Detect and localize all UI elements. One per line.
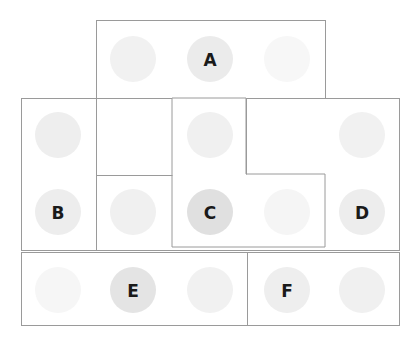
circle-a-shape [187, 36, 233, 82]
circle-r4c5-shape [339, 267, 385, 313]
circle-r3c4-shape [264, 189, 310, 235]
circle-c-shape [187, 189, 233, 235]
diagram-canvas: ABCDEF [0, 0, 418, 340]
circle-r1c2-shape [110, 36, 156, 82]
circle-r4c3 [187, 267, 233, 313]
circle-r3c2-shape [110, 189, 156, 235]
circle-d-shape [339, 189, 385, 235]
circle-r1c4 [264, 36, 310, 82]
circle-f: F [264, 267, 310, 313]
circle-r4c1 [35, 267, 81, 313]
circle-r2c5-shape [339, 112, 385, 158]
circle-r4c3-shape [187, 267, 233, 313]
circle-b-shape [35, 189, 81, 235]
circle-a: A [187, 36, 233, 82]
circle-r2c1 [35, 112, 81, 158]
circle-r2c1-shape [35, 112, 81, 158]
circle-r2c3 [187, 112, 233, 158]
circle-d: D [339, 189, 385, 235]
circle-c: C [187, 189, 233, 235]
circle-r1c2 [110, 36, 156, 82]
circle-r4c5 [339, 267, 385, 313]
circle-r1c4-shape [264, 36, 310, 82]
circle-r3c4 [264, 189, 310, 235]
circle-r3c2 [110, 189, 156, 235]
circle-e-shape [110, 267, 156, 313]
circle-r2c3-shape [187, 112, 233, 158]
circle-f-shape [264, 267, 310, 313]
circle-r4c1-shape [35, 267, 81, 313]
diagram-svg: ABCDEF [0, 0, 418, 340]
circle-b: B [35, 189, 81, 235]
circle-e: E [110, 267, 156, 313]
circle-r2c5 [339, 112, 385, 158]
